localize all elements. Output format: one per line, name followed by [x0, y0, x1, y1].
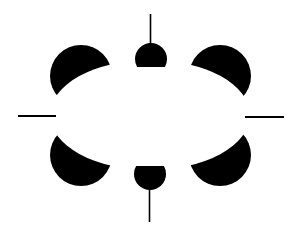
- top-right-notched-disk: [189, 45, 251, 107]
- bottom-right-notched-disk: [189, 124, 251, 186]
- illusory-contour-figure: [0, 0, 287, 235]
- background: [0, 0, 287, 235]
- top-left-notched-disk: [50, 45, 112, 107]
- bottom-left-notched-disk: [50, 124, 112, 186]
